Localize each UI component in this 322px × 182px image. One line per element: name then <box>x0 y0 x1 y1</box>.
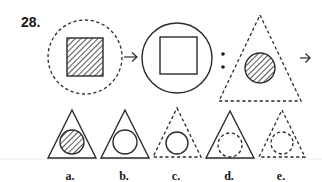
option-b[interactable]: b. <box>101 110 149 182</box>
pair1-source-figure <box>48 20 122 94</box>
hatched-circle-shape <box>60 130 84 154</box>
hatched-circle-shape <box>245 53 275 83</box>
hatched-square-shape <box>67 38 103 76</box>
analogy-figure: 28. a. b. <box>0 0 322 182</box>
option-label: d. <box>224 169 234 182</box>
pair1-target-figure <box>142 23 212 93</box>
arrow-right-icon <box>300 54 310 63</box>
empty-circle-shape <box>166 132 188 154</box>
dashed-circle-shape <box>218 133 242 157</box>
option-d[interactable]: d. <box>206 111 254 182</box>
dashed-triangle-shape <box>259 110 305 157</box>
option-label: e. <box>277 169 285 182</box>
solid-triangle-shape <box>206 111 254 158</box>
option-e[interactable]: e. <box>259 110 305 182</box>
solid-circle-shape <box>142 23 212 93</box>
arrow-right-icon <box>124 53 137 62</box>
pair2-source-figure <box>219 15 301 101</box>
question-number: 28. <box>21 14 40 30</box>
dashed-circle-shape <box>271 132 293 154</box>
option-a[interactable]: a. <box>48 110 96 182</box>
empty-square-shape <box>160 37 197 74</box>
option-label: b. <box>119 169 129 182</box>
option-c[interactable]: c. <box>153 108 201 182</box>
option-label: c. <box>172 169 180 182</box>
solid-triangle-shape <box>101 110 149 158</box>
option-label: a. <box>66 169 75 182</box>
colon-separator-icon <box>221 52 225 69</box>
empty-circle-shape <box>113 130 137 154</box>
